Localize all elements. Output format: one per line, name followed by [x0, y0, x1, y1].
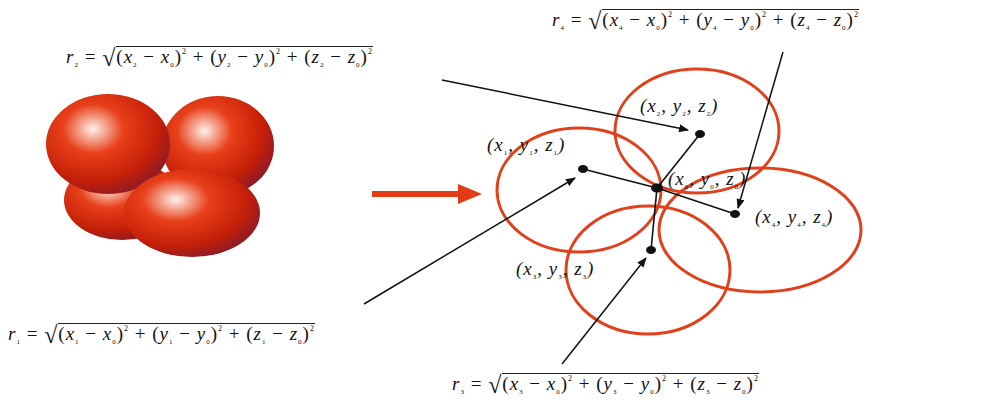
formula-r2: r2 = √ (x2 − x0)2 + (y2 − y0)2 + (z2 − z… — [66, 45, 373, 72]
point-1-label: (x1, y1, z1) — [487, 134, 565, 157]
point-3-label: (x3, y3, z3) — [516, 258, 594, 281]
sphere-cluster-image — [46, 94, 274, 257]
point-1-dot — [578, 165, 588, 173]
sphere-front-right — [124, 169, 260, 257]
point-4-label: (x4, y4, z4) — [755, 206, 833, 229]
point-3-dot — [646, 246, 656, 254]
point-4-dot — [730, 210, 740, 218]
formula-r4: r4 = √ (x4 − x0)2 + (y4 − y0)2 + (z4 − z… — [552, 8, 859, 35]
point-2-dot — [695, 130, 705, 138]
formula-r1: r1 = √ (x1 − x0)2 + (y1 − y0)2 + (z1 − z… — [8, 322, 315, 349]
formula-r3: r3 = √ (x3 − x0)2 + (y3 − y0)2 + (z3 − z… — [452, 372, 759, 399]
point-0-dot — [651, 184, 663, 193]
pointer-arrows — [364, 52, 783, 364]
transition-arrow-icon — [372, 184, 482, 204]
point-2-label: (x2, y2, z2) — [640, 95, 718, 118]
point-0-label: (x0, y0, z0) — [668, 168, 746, 191]
trilateration-diagram: (x2, y2, z2) (x1, y1, z1) (x0, y0, z0) (… — [0, 0, 999, 407]
